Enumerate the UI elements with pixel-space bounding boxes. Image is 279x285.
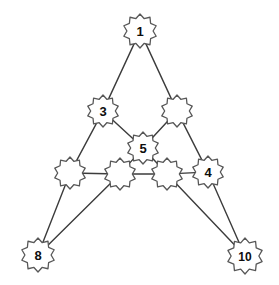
node-label: 4	[204, 165, 212, 180]
graph-edge	[180, 173, 195, 174]
graph-edge	[43, 185, 65, 242]
graph-canvas: 1354810	[0, 0, 279, 285]
node-label: 8	[34, 248, 41, 263]
node-label: 3	[99, 104, 106, 119]
graph-edge	[112, 120, 133, 140]
node-label: 1	[136, 24, 143, 39]
graph-edge	[146, 43, 172, 99]
graph-edge	[76, 122, 97, 161]
graph-edge	[213, 184, 239, 243]
graph-node-unlabeled[interactable]	[55, 157, 85, 189]
starburst-icon	[55, 157, 85, 189]
graph-node-1[interactable]: 1	[124, 14, 156, 48]
node-label: 10	[238, 250, 252, 264]
graph-edge	[152, 120, 169, 138]
graph-edge	[48, 183, 111, 245]
graph-figure: 1354810	[0, 0, 279, 285]
node-label: 5	[139, 141, 146, 156]
graph-node-3[interactable]: 3	[88, 95, 118, 127]
graph-edge	[108, 43, 134, 99]
graph-edge	[183, 122, 202, 160]
graph-node-4[interactable]: 4	[193, 156, 223, 188]
